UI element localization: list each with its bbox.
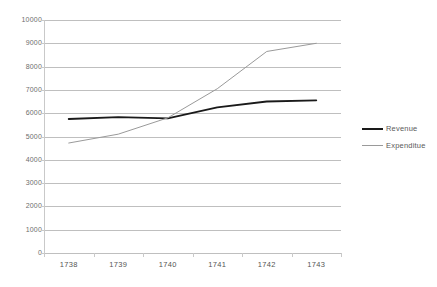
legend-item-expenditure: Expenditue xyxy=(362,138,437,155)
series-line-expenditue xyxy=(69,43,317,143)
legend-swatch-expenditure xyxy=(362,145,383,146)
legend-label-revenue: Revenue xyxy=(386,121,417,136)
legend-swatch-revenue xyxy=(362,128,383,130)
line-chart: 0100020003000400050006000700080009000100… xyxy=(0,0,437,287)
legend-item-revenue: Revenue xyxy=(362,121,437,138)
chart-legend: Revenue Expenditue xyxy=(362,121,437,155)
legend-label-expenditure: Expenditue xyxy=(386,138,426,153)
